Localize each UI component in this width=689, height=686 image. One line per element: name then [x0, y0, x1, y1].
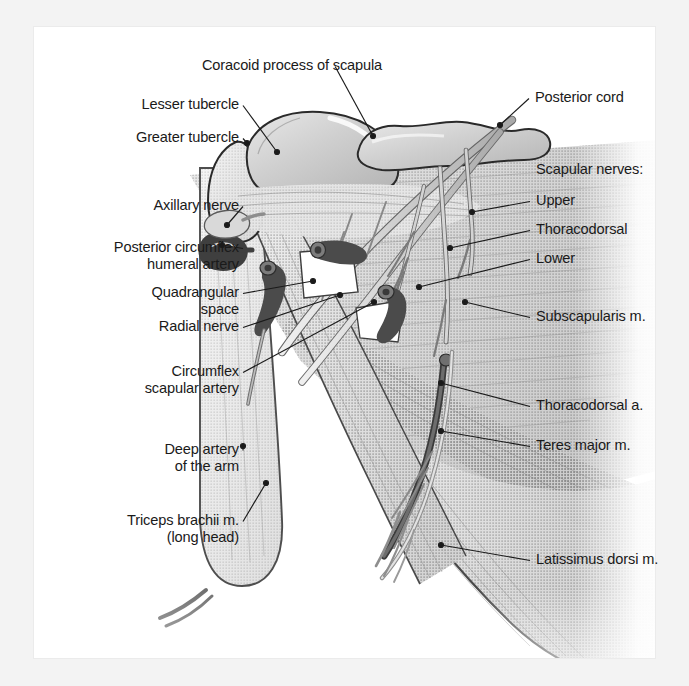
- label-triceps-brachii-long-head: Triceps brachii m. (long head): [51, 512, 239, 546]
- label-teres-major-muscle: Teres major m.: [536, 437, 676, 454]
- figure-frame: Coracoid process of scapulaPosterior cor…: [0, 0, 689, 686]
- label-thoracodorsal-nerve: Thoracodorsal: [536, 221, 660, 238]
- label-coracoid-process: Coracoid process of scapula: [194, 57, 390, 74]
- label-scapular-nerve-lower: Lower: [536, 250, 606, 267]
- label-scapular-nerves-heading: Scapular nerves:: [536, 161, 676, 178]
- label-lesser-tubercle: Lesser tubercle: [125, 96, 239, 113]
- label-greater-tubercle: Greater tubercle: [93, 129, 239, 146]
- label-thoracodorsal-artery: Thoracodorsal a.: [536, 397, 686, 414]
- label-radial-nerve: Radial nerve: [113, 318, 239, 335]
- label-latissimus-dorsi-muscle: Latissimus dorsi m.: [536, 551, 689, 568]
- label-subscapularis-muscle: Subscapularis m.: [536, 308, 686, 325]
- label-circumflex-scapular: Circumflex scapular artery: [79, 363, 239, 397]
- label-quadrangular-space: Quadrangular space: [79, 284, 239, 318]
- label-posterior-cord: Posterior cord: [535, 89, 665, 106]
- label-posterior-circumflex: Posterior circumflex humeral artery: [51, 239, 239, 273]
- label-axillary-nerve: Axillary nerve: [113, 197, 239, 214]
- label-deep-artery-of-arm: Deep artery of the arm: [79, 441, 239, 475]
- label-scapular-nerve-upper: Upper: [536, 192, 606, 209]
